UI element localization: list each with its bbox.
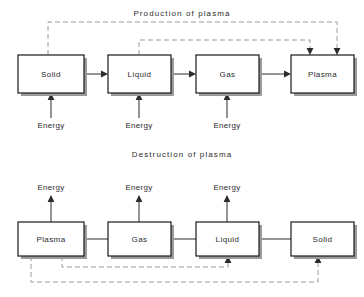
state-box-solid[interactable]: Solid <box>18 55 87 96</box>
state-box-plasma[interactable]: Plasma <box>291 55 357 96</box>
arrowhead-solid-to-plasma <box>334 48 341 55</box>
state-label-gas-destruction: Gas <box>132 235 148 244</box>
production-section: Production of plasma <box>18 9 357 130</box>
state-box-gas-destruction[interactable]: Gas <box>108 222 174 259</box>
state-box-plasma-destruction[interactable]: Plasma <box>18 222 87 259</box>
energy-label-out-gas: Energy <box>125 183 152 192</box>
arrowhead-energy-out-plasma <box>48 195 55 202</box>
arrowhead-liquid-to-plasma <box>307 48 314 55</box>
feedback-path-plasma-to-solid <box>31 256 321 282</box>
energy-output-gas: Energy <box>125 183 152 222</box>
energy-output-liquid: Energy <box>213 183 240 222</box>
state-box-liquid-destruction[interactable]: Liquid <box>196 222 262 259</box>
state-label-gas: Gas <box>220 70 236 79</box>
transition-liquid-gas <box>171 71 196 78</box>
state-label-plasma-destruction: Plasma <box>36 235 65 244</box>
energy-label-gas: Energy <box>213 121 240 130</box>
energy-label-solid: Energy <box>37 121 64 130</box>
feedback-path-liquid-to-plasma <box>139 40 313 55</box>
diagram-canvas: Production of plasma <box>0 0 364 297</box>
feedback-path-solid-to-plasma <box>48 22 340 55</box>
destruction-section: Destruction of plasma Energy Energy Ener… <box>18 150 357 282</box>
energy-label-out-plasma: Energy <box>37 183 64 192</box>
energy-input-liquid: Energy <box>125 93 152 130</box>
state-label-liquid-destruction: Liquid <box>216 235 240 244</box>
state-box-gas[interactable]: Gas <box>196 55 262 96</box>
state-label-liquid: Liquid <box>128 70 152 79</box>
arrowhead-gas-plasma <box>284 71 291 78</box>
arrowhead-energy-out-liquid <box>224 195 231 202</box>
energy-output-plasma: Energy <box>37 183 64 222</box>
energy-input-solid: Energy <box>37 93 64 130</box>
destruction-title: Destruction of plasma <box>132 150 232 159</box>
plasma-state-diagram: Production of plasma <box>0 0 364 297</box>
state-box-liquid[interactable]: Liquid <box>108 55 174 96</box>
state-label-plasma: Plasma <box>308 70 337 79</box>
arrowhead-solid-liquid <box>101 71 108 78</box>
production-title: Production of plasma <box>133 9 230 18</box>
state-box-solid-destruction[interactable]: Solid <box>291 222 357 259</box>
arrowhead-liquid-gas <box>189 71 196 78</box>
energy-label-liquid: Energy <box>125 121 152 130</box>
energy-label-out-liquid: Energy <box>213 183 240 192</box>
state-label-solid: Solid <box>41 70 61 79</box>
state-label-solid-destruction: Solid <box>313 235 333 244</box>
transition-solid-liquid <box>84 71 108 78</box>
energy-input-gas: Energy <box>213 93 240 130</box>
arrowhead-energy-out-gas <box>136 195 143 202</box>
transition-gas-plasma <box>259 71 291 78</box>
